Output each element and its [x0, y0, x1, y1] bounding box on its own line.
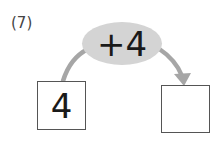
start-number-box: 4: [37, 81, 86, 130]
problem-diagram: (7) +4 4: [0, 0, 223, 151]
answer-box[interactable]: [161, 85, 210, 133]
start-number: 4: [51, 86, 73, 126]
operation-label: +4: [82, 22, 162, 65]
